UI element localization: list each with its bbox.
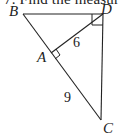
segment-bc <box>23 14 101 120</box>
triangle-diagram: B D A C 6 9 <box>0 0 119 133</box>
vertex-label-d: D <box>100 1 112 17</box>
segment-dc <box>101 14 103 120</box>
segment-label-ac: 9 <box>64 90 71 105</box>
vertex-label-b: B <box>9 3 18 19</box>
right-angle-mark-a <box>55 49 60 59</box>
vertex-label-a: A <box>36 49 47 65</box>
segment-label-ad: 6 <box>73 35 80 50</box>
vertex-label-c: C <box>103 120 114 133</box>
